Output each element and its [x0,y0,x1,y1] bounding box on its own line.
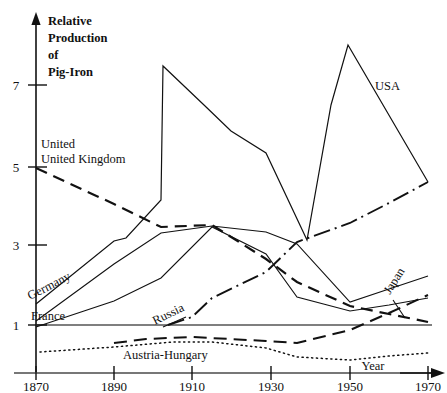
x-tick-label-1870: 1870 [23,379,49,393]
series-label-austria-hungary: Austria-Hungary [123,348,208,362]
chart-title-line-2: Production [48,31,108,45]
series-line-germany [36,226,428,321]
y-tick-label-3: 3 [13,238,20,253]
chart-title-line-4: Pig-Iron [48,65,93,79]
x-tick-label-1890: 1890 [101,379,127,393]
series-label-japan: Japan [381,264,408,296]
x-axis-caption: Year [361,359,385,373]
series-label-germany: Germany [25,269,73,303]
series-label-russia: Russia [150,300,187,327]
series-line-united-kingdom [36,168,428,322]
chart-title-line-1: Relative [48,14,92,28]
x-tick-label-1910: 1910 [179,379,205,393]
series-line-russia [168,182,428,325]
up-arrow-icon [31,12,40,25]
pig-iron-line-chart: 7 5 3 1 1870 1890 1910 1930 1950 1970 Re… [0,0,447,393]
y-tick-label-1: 1 [13,318,20,333]
chart-title-line-3: of [48,48,59,62]
y-tick-label-5: 5 [13,160,20,175]
series-label-united-kingdom: United Kingdom [41,152,126,166]
x-tick-label-1970: 1970 [415,379,441,393]
x-tick-label-1930: 1930 [258,379,284,393]
series-label-usa: USA [375,79,400,93]
series-label-united-kingdom-line1: United [41,137,76,151]
chart-container: 7 5 3 1 1870 1890 1910 1930 1950 1970 Re… [0,0,447,393]
series-line-usa [36,45,428,304]
y-tick-label-7: 7 [13,78,20,93]
x-tick-label-1950: 1950 [337,379,363,393]
series-line-austria-hungary [40,342,428,360]
series-line-france [36,227,428,327]
series-label-france: France [31,309,65,323]
